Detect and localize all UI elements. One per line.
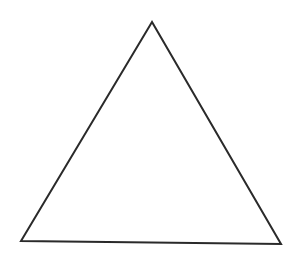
diagram-canvas (0, 0, 294, 259)
triangle-shape (21, 22, 281, 244)
